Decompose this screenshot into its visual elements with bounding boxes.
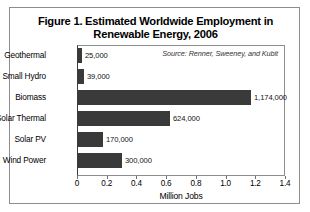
x-axis: 0 0.2 0.4 0.6 0.8 1.0 1.2 1.4 <box>77 176 285 190</box>
category-label-solar-thermal: Solar Thermal <box>0 113 46 123</box>
source-note: Source: Renner, Sweeney, and Kubit <box>162 49 278 58</box>
x-tick-label-5: 1.0 <box>220 179 231 188</box>
bar-value-biomass: 1,174,000 <box>254 93 287 102</box>
plot-area: Source: Renner, Sweeney, and Kubit Geoth… <box>77 45 285 176</box>
category-label-geothermal: Geothermal <box>0 50 46 60</box>
chart-title-line-1: Figure 1. Estimated Worldwide Employment… <box>22 15 289 28</box>
x-tick-label-1: 0.2 <box>101 179 112 188</box>
bar-value-wind-power: 300,000 <box>125 156 152 165</box>
x-tick-label-7: 1.4 <box>280 179 291 188</box>
chart-title-line-2: Renewable Energy, 2006 <box>22 28 289 41</box>
bar-wind-power <box>78 153 122 168</box>
category-label-biomass: Biomass <box>0 92 46 102</box>
bar-row-small-hydro: 39,000 <box>78 69 110 84</box>
x-axis-title: Million Jobs <box>77 191 285 201</box>
bar-value-small-hydro: 39,000 <box>87 72 110 81</box>
bar-value-geothermal: 25,000 <box>85 51 108 60</box>
category-label-solar-pv: Solar PV <box>0 134 46 144</box>
bar-biomass <box>78 90 251 105</box>
bar-solar-thermal <box>78 111 170 126</box>
bar-value-solar-pv: 170,000 <box>106 135 133 144</box>
x-tick-label-3: 0.6 <box>161 179 172 188</box>
bar-row-biomass: 1,174,000 <box>78 90 287 105</box>
x-tick-label-6: 1.2 <box>250 179 261 188</box>
category-label-wind-power: Wind Power <box>0 155 46 165</box>
category-label-small-hydro: Small Hydro <box>0 71 46 81</box>
bar-row-solar-thermal: 624,000 <box>78 111 200 126</box>
bar-value-solar-thermal: 624,000 <box>173 114 200 123</box>
figure-frame: Figure 1. Estimated Worldwide Employment… <box>9 7 300 204</box>
bar-geothermal <box>78 48 82 63</box>
bar-solar-pv <box>78 132 103 147</box>
x-tick-label-4: 0.8 <box>190 179 201 188</box>
x-tick-label-0: 0 <box>75 179 79 188</box>
x-tick-label-2: 0.4 <box>131 179 142 188</box>
bar-row-solar-pv: 170,000 <box>78 132 133 147</box>
chart-title: Figure 1. Estimated Worldwide Employment… <box>22 15 289 40</box>
bar-small-hydro <box>78 69 84 84</box>
bar-row-wind-power: 300,000 <box>78 153 152 168</box>
bar-row-geothermal: 25,000 <box>78 48 108 63</box>
